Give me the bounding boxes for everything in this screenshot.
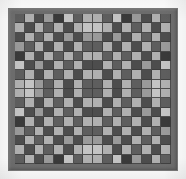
tile <box>122 42 132 51</box>
tile <box>44 155 54 164</box>
tile <box>74 42 84 51</box>
tile <box>113 108 123 117</box>
tile <box>113 89 123 98</box>
tile <box>44 80 54 89</box>
tile <box>83 33 93 42</box>
tile <box>15 52 25 61</box>
tile <box>122 23 132 32</box>
tile <box>25 70 35 79</box>
tile <box>83 136 93 145</box>
tile <box>54 98 64 107</box>
tile <box>122 89 132 98</box>
tile <box>161 136 171 145</box>
tile <box>161 155 171 164</box>
tile <box>132 145 142 154</box>
tile <box>25 33 35 42</box>
tile <box>15 80 25 89</box>
tile <box>103 61 113 70</box>
tile <box>161 33 171 42</box>
tile <box>44 61 54 70</box>
tile <box>83 52 93 61</box>
tile <box>64 117 74 126</box>
tile <box>113 136 123 145</box>
tile <box>142 136 152 145</box>
tile <box>103 80 113 89</box>
tile <box>64 61 74 70</box>
tile <box>122 98 132 107</box>
tile <box>44 89 54 98</box>
tile <box>35 33 45 42</box>
tile <box>64 155 74 164</box>
tile <box>122 136 132 145</box>
tile <box>83 80 93 89</box>
tile <box>161 98 171 107</box>
tile <box>35 127 45 136</box>
tile <box>103 52 113 61</box>
tile <box>54 117 64 126</box>
tile <box>103 108 113 117</box>
tile <box>44 136 54 145</box>
tile <box>35 23 45 32</box>
tile <box>25 52 35 61</box>
tile <box>25 117 35 126</box>
tile <box>93 14 103 23</box>
tile <box>25 61 35 70</box>
tile <box>83 117 93 126</box>
tile <box>74 136 84 145</box>
tile <box>25 23 35 32</box>
tile <box>142 155 152 164</box>
tile <box>113 70 123 79</box>
tile <box>64 98 74 107</box>
tile <box>93 42 103 51</box>
tile <box>83 127 93 136</box>
tile <box>54 61 64 70</box>
tile <box>83 23 93 32</box>
tile <box>161 23 171 32</box>
tile <box>64 14 74 23</box>
tile <box>152 61 162 70</box>
tile <box>103 145 113 154</box>
tile <box>35 145 45 154</box>
tile <box>142 61 152 70</box>
tile <box>161 127 171 136</box>
tile <box>103 155 113 164</box>
tile <box>54 89 64 98</box>
tile <box>132 98 142 107</box>
tile <box>132 127 142 136</box>
tile <box>132 136 142 145</box>
tile <box>15 61 25 70</box>
tile <box>64 136 74 145</box>
tile <box>152 80 162 89</box>
tile <box>64 89 74 98</box>
tile <box>113 117 123 126</box>
tile <box>132 89 142 98</box>
tile <box>35 136 45 145</box>
tile <box>93 155 103 164</box>
tile <box>44 108 54 117</box>
tile <box>113 80 123 89</box>
tile <box>74 23 84 32</box>
tile <box>44 52 54 61</box>
tile <box>132 33 142 42</box>
tile <box>93 117 103 126</box>
tile <box>64 70 74 79</box>
tile <box>152 42 162 51</box>
tile <box>44 14 54 23</box>
tile <box>44 70 54 79</box>
tile <box>152 52 162 61</box>
tile <box>142 145 152 154</box>
tile <box>83 155 93 164</box>
tile <box>35 98 45 107</box>
tile <box>64 42 74 51</box>
tile <box>113 155 123 164</box>
tile <box>25 127 35 136</box>
tile <box>74 98 84 107</box>
tile <box>122 14 132 23</box>
tile <box>35 42 45 51</box>
tile <box>64 80 74 89</box>
tile <box>161 117 171 126</box>
tile <box>103 70 113 79</box>
tile <box>64 127 74 136</box>
tile <box>122 33 132 42</box>
tile <box>132 155 142 164</box>
